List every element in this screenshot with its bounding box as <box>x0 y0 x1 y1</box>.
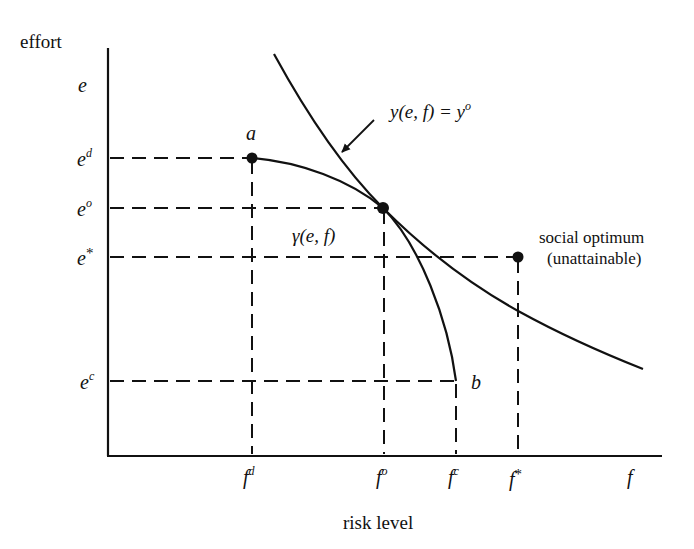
horizontal-guides <box>110 158 518 381</box>
tick-label-estar: e* <box>77 245 93 269</box>
tick-label-ec: ec <box>80 369 95 393</box>
y-axis-label: effort <box>20 31 63 52</box>
social-optimum-label-line1: social optimum <box>539 228 644 247</box>
tick-label-ed: ed <box>77 146 93 170</box>
social-optimum-label-line2: (unattainable) <box>547 249 641 268</box>
isocurve-pointer-arrow <box>342 120 374 152</box>
point-a-label: a <box>246 122 256 144</box>
diagram-canvas: effort risk level e ed eo e* ec fd fo fc… <box>0 0 694 549</box>
tick-label-fstar: f* <box>509 466 522 491</box>
point-social-optimum <box>513 252 524 263</box>
point-b-label: b <box>471 371 481 393</box>
y-axis-symbol: e <box>78 74 87 96</box>
frontier-curve-gamma <box>252 158 456 381</box>
tick-label-eo: eo <box>77 196 92 220</box>
isocurve-label: y(e, f) = yo <box>388 99 471 123</box>
tick-label-fd: fd <box>243 464 256 489</box>
tick-label-fo: fo <box>376 464 388 489</box>
x-axis-symbol: f <box>627 466 635 489</box>
frontier-label: γ(e, f) <box>292 225 335 247</box>
point-tangency <box>377 202 389 214</box>
point-a <box>247 153 258 164</box>
tick-label-fc: fc <box>448 464 460 489</box>
x-axis-label: risk level <box>343 512 413 533</box>
